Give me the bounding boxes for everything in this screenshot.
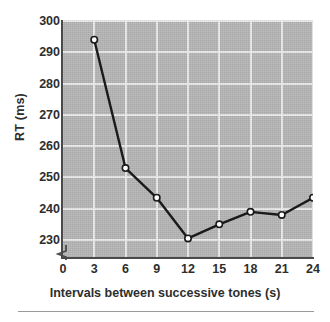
- x-axis-tick-label: 24: [298, 262, 328, 276]
- data-point-marker: [310, 195, 313, 201]
- data-point-marker: [247, 209, 253, 215]
- data-point-marker: [279, 212, 285, 218]
- data-point-marker: [185, 235, 191, 241]
- data-point-marker: [91, 37, 97, 43]
- y-axis-tick-labels: 230240250260270280290300: [22, 14, 60, 246]
- x-axis-tick-label: 12: [173, 262, 203, 276]
- y-axis-line: [61, 20, 63, 258]
- x-axis-tick-label: 15: [204, 262, 234, 276]
- chart-figure: RT (ms) 230240250260270280290300 0369121…: [0, 0, 330, 322]
- data-series-line: [63, 20, 313, 258]
- x-axis-tick-label: 18: [236, 262, 266, 276]
- y-axis-tick-label: 260: [22, 139, 60, 153]
- x-axis-tick-labels: 03691215182124: [63, 262, 313, 280]
- x-axis-tick-label: 0: [48, 262, 78, 276]
- series-polyline: [94, 40, 313, 239]
- axis-break-icon: [54, 244, 72, 261]
- y-axis-tick-label: 250: [22, 170, 60, 184]
- y-axis-tick-label: 270: [22, 108, 60, 122]
- x-axis-title: Intervals between successive tones (s): [0, 286, 330, 300]
- x-axis-tick-label: 9: [142, 262, 172, 276]
- y-axis-tick-label: 290: [22, 45, 60, 59]
- y-axis-tick-label: 280: [22, 77, 60, 91]
- footer-divider: [18, 311, 314, 312]
- plot-area: [63, 20, 313, 258]
- y-axis-tick-label: 240: [22, 202, 60, 216]
- y-axis-tick-label: 300: [22, 14, 60, 28]
- x-axis-tick-label: 21: [267, 262, 297, 276]
- data-point-marker: [122, 165, 128, 171]
- x-axis-line: [61, 257, 314, 259]
- data-point-marker: [154, 195, 160, 201]
- x-axis-tick-label: 3: [79, 262, 109, 276]
- x-axis-tick-label: 6: [111, 262, 141, 276]
- data-point-marker: [216, 221, 222, 227]
